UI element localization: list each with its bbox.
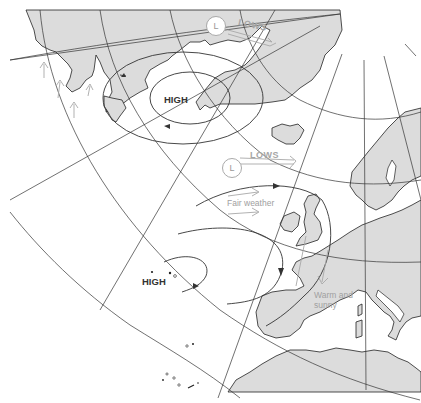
lows-label-mid: LOWS (250, 150, 279, 160)
land-great-britain (296, 194, 322, 246)
map-canvas (0, 0, 421, 403)
land-north-africa (228, 348, 421, 392)
low-symbol-north: L (206, 16, 226, 36)
isobar-arrow (164, 124, 170, 129)
land-corsica (358, 304, 362, 316)
fair-weather-label: Fair weather (227, 198, 274, 208)
warm-sunny-label-line1: Warm and (314, 290, 353, 300)
low-symbol-mid: L (222, 158, 242, 178)
warm-sunny-label-line2: sunny (314, 300, 337, 310)
land-sardinia (356, 320, 362, 338)
weather-map: HIGH HIGH L LOWS L LOWS Fair weather War… (0, 0, 421, 403)
high-pressure-label-north: HIGH (164, 94, 188, 105)
land-ireland (280, 212, 300, 232)
high-pressure-label-south: HIGH (142, 276, 166, 287)
land-iceland (272, 124, 304, 144)
